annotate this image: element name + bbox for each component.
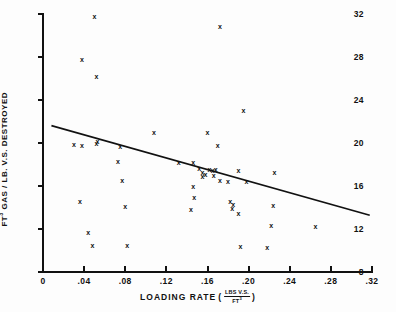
- data-point: x: [237, 243, 243, 250]
- data-point: x: [117, 143, 123, 150]
- data-point: x: [235, 167, 241, 174]
- data-point: x: [190, 159, 196, 166]
- data-point: x: [115, 158, 121, 165]
- data-point: x: [268, 222, 274, 229]
- scatter-chart-figure: 8121620242832 0.04.08.12.16.20.24.28.32 …: [0, 0, 396, 312]
- data-point: x: [77, 198, 83, 205]
- x-tick-label: .12: [160, 276, 173, 286]
- x-axis-units-close: ): [252, 292, 256, 302]
- data-point: x: [270, 202, 276, 209]
- x-axis-label-text: LOADING RATE: [140, 292, 216, 302]
- data-point: x: [244, 178, 250, 185]
- plot-area: 8121620242832 0.04.08.12.16.20.24.28.32 …: [43, 14, 372, 272]
- data-point: x: [71, 141, 77, 148]
- x-axis-units-fraction: LBS V.S. FT3: [224, 290, 250, 304]
- x-tick-label: .04: [78, 276, 91, 286]
- data-point: x: [215, 142, 221, 149]
- data-point: x: [79, 56, 85, 63]
- data-point: x: [264, 244, 270, 251]
- data-point: x: [176, 159, 182, 166]
- data-point: x: [217, 23, 223, 30]
- data-point: x: [119, 177, 125, 184]
- data-point: x: [89, 242, 95, 249]
- data-point: x: [94, 138, 100, 145]
- data-point: x: [211, 172, 217, 179]
- data-point: x: [79, 142, 85, 149]
- data-point: x: [151, 129, 157, 136]
- x-tick-label: .32: [365, 276, 378, 286]
- data-point: x: [217, 177, 223, 184]
- x-tick-label: .20: [242, 276, 255, 286]
- x-tick-label: .24: [283, 276, 296, 286]
- data-point: x: [205, 129, 211, 136]
- data-point: x: [225, 178, 231, 185]
- data-point: x: [91, 13, 97, 20]
- x-axis-label: LOADING RATE ( LBS V.S. FT3 ): [140, 290, 256, 304]
- x-axis-units: (: [218, 292, 222, 302]
- y-axis-label: FT3 GAS / LB. V.S. DESTROYED: [0, 92, 9, 227]
- data-point: x: [85, 229, 91, 236]
- x-tick-label: .28: [324, 276, 337, 286]
- x-tick-label: .08: [119, 276, 132, 286]
- trend-line: [43, 14, 372, 272]
- data-point: x: [122, 203, 128, 210]
- data-point: x: [199, 173, 205, 180]
- data-point: x: [312, 223, 318, 230]
- data-point: x: [191, 194, 197, 201]
- data-point: x: [124, 242, 130, 249]
- x-tick-label: 0: [40, 276, 45, 286]
- data-point: x: [240, 107, 246, 114]
- data-point: x: [93, 73, 99, 80]
- data-point: x: [229, 205, 235, 212]
- data-point: x: [190, 183, 196, 190]
- units-denominator: FT3: [231, 297, 243, 304]
- data-point: x: [271, 169, 277, 176]
- x-tick-label: .16: [201, 276, 214, 286]
- data-point: x: [235, 210, 241, 217]
- data-point: x: [188, 206, 194, 213]
